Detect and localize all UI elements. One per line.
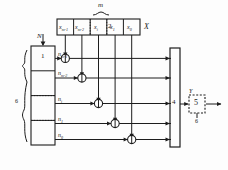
output-top-label: Y — [189, 88, 192, 94]
n-row-2: ni — [58, 96, 62, 104]
n-input-label: N — [37, 33, 42, 40]
left-brace — [23, 50, 28, 142]
n-row-0: nm-1 — [58, 51, 67, 59]
accumulator-input-arrowheads — [166, 56, 171, 141]
n-row-3-sub: 1 — [61, 119, 63, 124]
n-row-4: n0 — [58, 132, 63, 140]
left-register-outline — [31, 46, 55, 145]
x-cell-2-sub: i — [97, 27, 98, 32]
output-bottom-label: 6 — [195, 118, 198, 124]
n-row-2-sub: i — [61, 99, 62, 104]
accumulator-ref-number: 4 — [172, 99, 176, 106]
left-register-ref-number: 1 — [41, 53, 45, 60]
output-ref-number: 5 — [194, 99, 198, 107]
m-span-label: m — [98, 2, 103, 9]
x-cell-2: xi — [94, 24, 98, 32]
n-row-1-sub: m-2 — [61, 73, 67, 78]
output-line — [180, 102, 221, 106]
n-row-3: n1 — [58, 116, 63, 124]
x-cell-1-sub: m-2 — [78, 27, 84, 32]
x-cell-0-sub: m-1 — [62, 27, 68, 32]
m-span-brace — [93, 12, 109, 15]
figure-canvas: m xm-1 xm-2 xi x1 x0 2 X N 1 6 nm-1 nm-2… — [0, 0, 228, 170]
left-brace-label: 6 — [15, 98, 18, 104]
n-row-4-sub: 0 — [61, 135, 63, 140]
n-row-0-sub: m-1 — [61, 54, 67, 59]
x-cell-4: x0 — [127, 24, 132, 32]
row-arrowheads-into-gates — [57, 56, 128, 141]
x-cell-1: xm-2 — [75, 24, 84, 32]
x-cell-3-sub: 1 — [113, 27, 115, 32]
x-cell-0: xm-1 — [59, 24, 68, 32]
top-register-label: X — [144, 23, 149, 31]
top-register-ref-number: 2 — [108, 23, 112, 30]
n-row-1: nm-2 — [58, 70, 67, 78]
x-cell-4-sub: 0 — [130, 27, 132, 32]
